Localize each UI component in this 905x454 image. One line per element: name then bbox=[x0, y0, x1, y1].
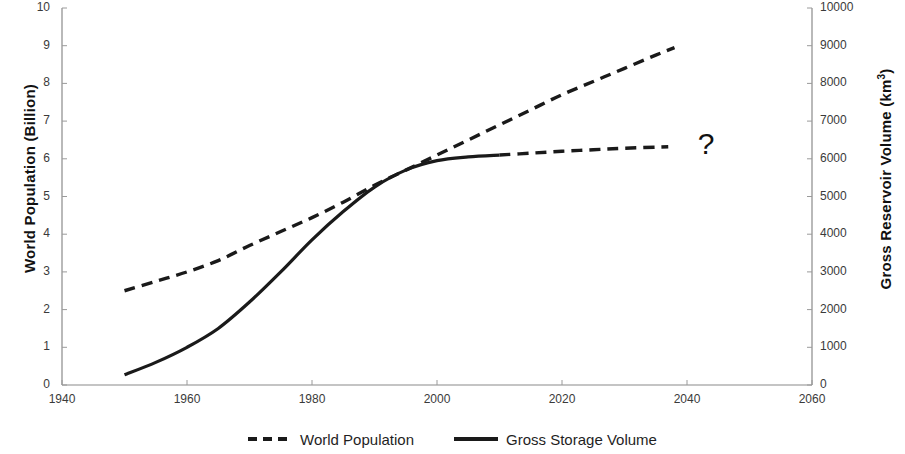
axis-lines bbox=[62, 8, 812, 385]
chart-container: World Population (Billion) Gross Reservo… bbox=[0, 0, 905, 454]
chart-legend: World PopulationGross Storage Volume bbox=[0, 424, 905, 454]
legend-label: World Population bbox=[300, 431, 414, 448]
legend-item: Gross Storage Volume bbox=[454, 431, 657, 448]
plot-area bbox=[0, 0, 905, 454]
series-line bbox=[125, 48, 675, 291]
legend-item: World Population bbox=[248, 431, 414, 448]
legend-dashed-line-icon bbox=[248, 434, 292, 444]
data-series bbox=[125, 48, 675, 375]
tick-marks bbox=[62, 8, 812, 385]
series-line bbox=[500, 147, 669, 155]
legend-solid-line-icon bbox=[454, 434, 498, 444]
series-line bbox=[125, 155, 500, 375]
legend-label: Gross Storage Volume bbox=[506, 431, 657, 448]
question-mark-annotation: ? bbox=[698, 127, 715, 161]
